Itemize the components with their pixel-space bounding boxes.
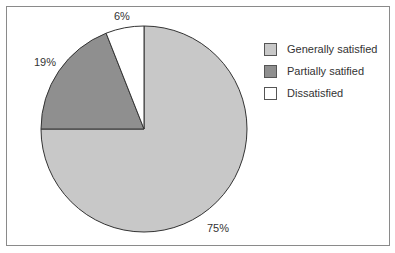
- legend-item-generally-satisfied: Generally satisfied: [264, 38, 378, 60]
- legend-label: Generally satisfied: [287, 43, 378, 55]
- legend-item-dissatisfied: Dissatisfied: [264, 82, 378, 104]
- legend-swatch: [264, 87, 277, 100]
- label-generally-satisfied: 75%: [207, 222, 229, 234]
- legend-label: Partially satified: [287, 65, 364, 77]
- legend-swatch: [264, 65, 277, 78]
- label-partially-satisfied: 19%: [34, 56, 56, 68]
- legend: Generally satisfied Partially satified D…: [264, 38, 378, 104]
- legend-label: Dissatisfied: [287, 87, 343, 99]
- legend-item-partially-satisfied: Partially satified: [264, 60, 378, 82]
- legend-swatch: [264, 43, 277, 56]
- label-dissatisfied: 6%: [114, 10, 130, 22]
